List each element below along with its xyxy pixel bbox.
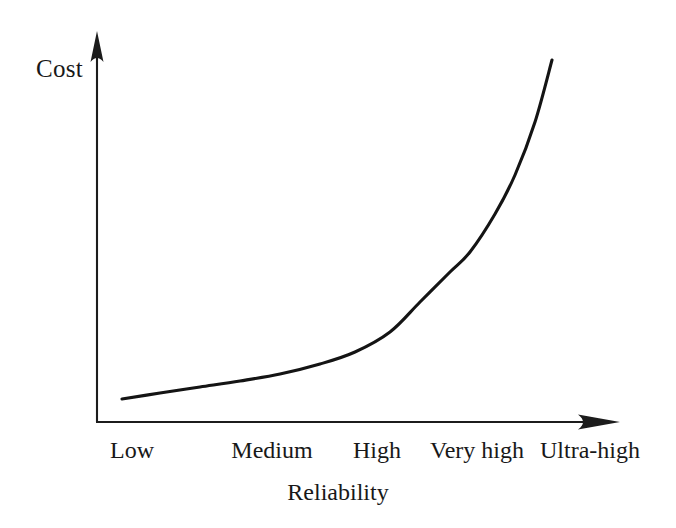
arrow-up-icon xyxy=(91,31,104,62)
x-tick-label-medium: Medium xyxy=(231,437,312,464)
x-tick-label-high: High xyxy=(353,437,401,464)
x-tick-label-very-high: Very high xyxy=(430,437,524,464)
cost-reliability-curve xyxy=(122,60,552,399)
x-tick-label-ultra-high: Ultra-high xyxy=(540,437,640,464)
arrow-right-icon xyxy=(578,415,620,430)
x-axis-label: Reliability xyxy=(0,479,676,506)
y-axis-label: Cost xyxy=(36,55,83,83)
x-tick-label-low: Low xyxy=(110,437,154,464)
chart-figure: Cost Low Medium High Very high Ultra-hig… xyxy=(0,0,676,528)
